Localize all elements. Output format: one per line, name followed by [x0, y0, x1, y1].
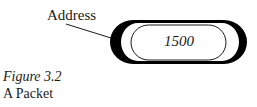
packet-address-value: 1500 — [131, 31, 227, 51]
figure-title: A Packet — [3, 85, 62, 102]
address-label: Address — [47, 6, 96, 24]
figure-number: Figure 3.2 — [3, 68, 62, 85]
figure-caption: Figure 3.2 A Packet — [3, 68, 62, 102]
leader-line — [66, 24, 111, 38]
packet-diagram: Address 1500 Figure 3.2 A Packet — [0, 0, 257, 107]
